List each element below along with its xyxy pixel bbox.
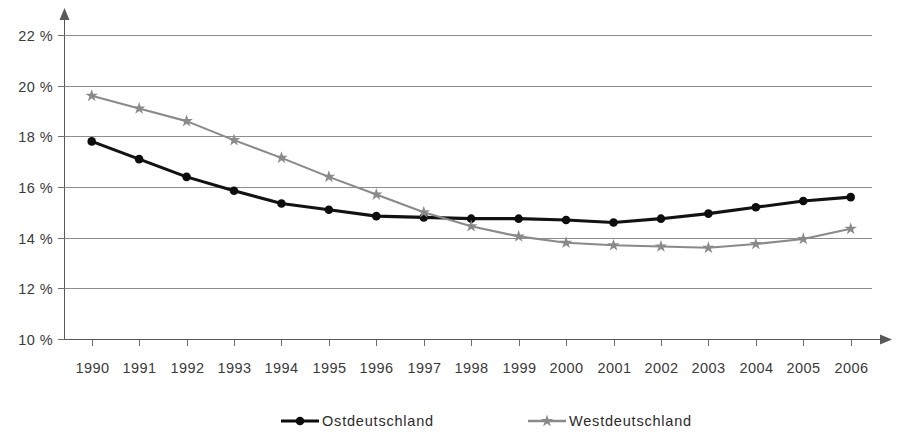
- legend-label: Westdeutschland: [569, 413, 692, 429]
- x-tick-label: 1990: [76, 360, 110, 376]
- x-tick-label: 1991: [123, 360, 157, 376]
- x-tick-label: 1992: [171, 360, 205, 376]
- y-tick-label: 22 %: [18, 28, 53, 44]
- data-point-marker: [135, 155, 144, 164]
- data-point-marker: [752, 203, 761, 212]
- x-tick-label: 2000: [550, 360, 584, 376]
- data-point-marker: [182, 173, 191, 182]
- data-point-marker: [514, 214, 523, 223]
- y-tick-label: 18 %: [18, 129, 53, 145]
- series-line-ostdeutschland: [92, 141, 851, 222]
- x-tick-label: 1995: [313, 360, 347, 376]
- legend-circle-marker-icon: [296, 417, 305, 426]
- data-point-marker: [323, 170, 336, 182]
- x-tick-label: 2004: [740, 360, 774, 376]
- y-tick-label: 16 %: [18, 180, 53, 196]
- data-point-marker: [87, 137, 96, 146]
- data-point-marker: [657, 214, 666, 223]
- chart-container: 22 %20 %18 %16 %14 %12 %10 % 19901991199…: [0, 0, 902, 445]
- data-series: [85, 89, 857, 253]
- y-tick-label: 20 %: [18, 79, 53, 95]
- x-tick-label: 1999: [503, 360, 537, 376]
- data-point-marker: [846, 193, 855, 202]
- x-tick-label: 1994: [265, 360, 299, 376]
- x-tick-label: 2005: [787, 360, 821, 376]
- gridlines: [65, 36, 873, 340]
- data-point-marker: [609, 218, 618, 227]
- data-point-marker: [799, 197, 808, 206]
- x-tick-label: 2001: [598, 360, 632, 376]
- line-chart: 22 %20 %18 %16 %14 %12 %10 % 19901991199…: [0, 0, 902, 445]
- y-tick-label: 14 %: [18, 231, 53, 247]
- data-point-marker: [372, 212, 381, 221]
- x-tick-label: 2006: [835, 360, 869, 376]
- x-tick-label: 1997: [408, 360, 442, 376]
- x-axis-arrow: [880, 335, 892, 345]
- data-point-marker: [230, 187, 239, 196]
- data-point-marker: [85, 89, 98, 101]
- x-tick-label: 1996: [360, 360, 394, 376]
- y-tick-label: 12 %: [18, 281, 53, 297]
- x-tick-label: 1993: [218, 360, 252, 376]
- data-point-marker: [277, 199, 286, 208]
- data-point-marker: [704, 209, 713, 218]
- y-axis-arrow: [60, 8, 70, 20]
- data-point-marker: [562, 216, 571, 225]
- legend-item-westdeutschland[interactable]: Westdeutschland: [528, 413, 692, 429]
- x-tick-label: 1998: [455, 360, 489, 376]
- y-axis-ticks: 22 %20 %18 %16 %14 %12 %10 %: [18, 28, 64, 348]
- x-tick-label: 2003: [692, 360, 726, 376]
- legend-label: Ostdeutschland: [322, 413, 434, 429]
- x-tick-label: 2002: [645, 360, 679, 376]
- legend-item-ostdeutschland[interactable]: Ostdeutschland: [281, 413, 434, 429]
- chart-legend: OstdeutschlandWestdeutschland: [281, 413, 692, 429]
- y-tick-label: 10 %: [18, 332, 53, 348]
- data-point-marker: [325, 206, 334, 215]
- x-axis-ticks: 1990199119921993199419951996199719981999…: [76, 340, 869, 377]
- data-point-marker: [844, 222, 857, 234]
